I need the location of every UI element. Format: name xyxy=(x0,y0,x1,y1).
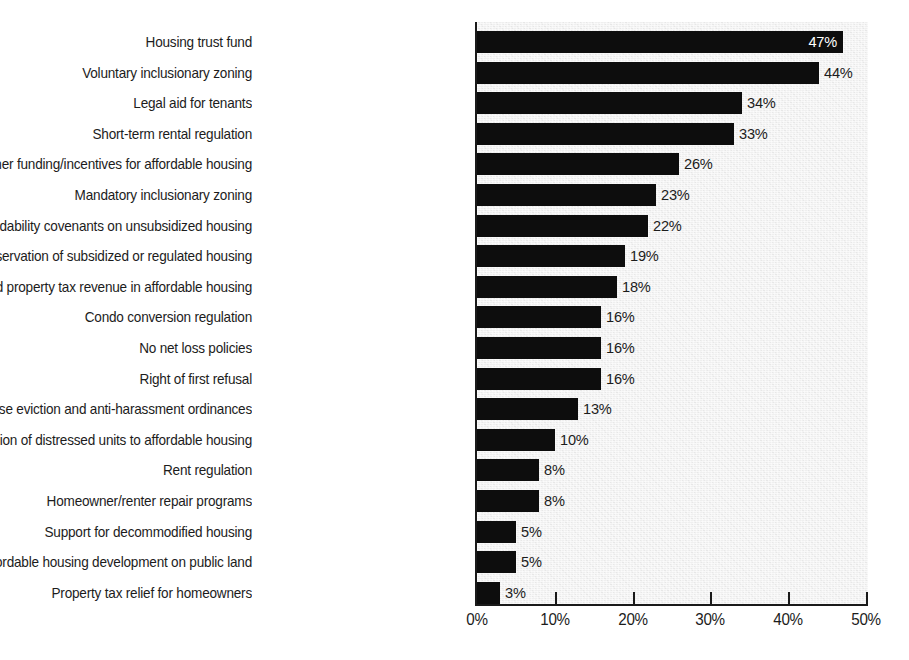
bar-value-label: 16% xyxy=(606,337,635,359)
bar xyxy=(477,276,617,298)
x-axis-tick-label: 30% xyxy=(677,610,744,630)
category-label: Voluntary inclusionary zoning xyxy=(0,62,252,84)
bar-row: Affordable housing development on public… xyxy=(0,551,909,573)
bar-value-label: 16% xyxy=(606,306,635,328)
bar-row: Voluntary inclusionary zoning44% xyxy=(0,62,909,84)
bar xyxy=(477,123,734,145)
bar-value-label: 16% xyxy=(606,368,635,390)
category-label: Preservation of subsidized or regulated … xyxy=(0,245,252,267)
bar-value-label: 8% xyxy=(544,490,565,512)
bar-value-label: 22% xyxy=(653,215,682,237)
bar-row: Right of first refusal16% xyxy=(0,368,909,390)
x-axis-tick xyxy=(788,592,790,604)
bar-row: Mandatory inclusionary zoning23% xyxy=(0,184,909,206)
bar-value-label: 33% xyxy=(739,123,768,145)
bar-row: Reinvesting increased property tax reven… xyxy=(0,276,909,298)
bar xyxy=(477,429,555,451)
x-axis-tick xyxy=(555,592,557,604)
bar-row: Housing trust fund47% xyxy=(0,31,909,53)
x-axis-tick xyxy=(866,592,868,604)
bar-value-label: 3% xyxy=(505,582,526,604)
bar-value-label: 13% xyxy=(583,398,612,420)
bar-row: Conversion of distressed units to afford… xyxy=(0,429,909,451)
bar xyxy=(477,62,819,84)
bar-value-label: 8% xyxy=(544,459,565,481)
category-label: Reinvesting increased property tax reven… xyxy=(0,276,252,298)
bar xyxy=(477,245,625,267)
x-axis-tick-label: 10% xyxy=(522,610,589,630)
bar-value-label: 47% xyxy=(786,31,837,53)
bar-row: Condo conversion regulation16% xyxy=(0,306,909,328)
bar-value-label: 18% xyxy=(622,276,651,298)
category-label: Short-term rental regulation xyxy=(0,123,252,145)
bar-row: Just cause eviction and anti-harassment … xyxy=(0,398,909,420)
bar-row: Rent regulation8% xyxy=(0,459,909,481)
bar-value-label: 19% xyxy=(630,245,659,267)
bar xyxy=(477,215,648,237)
bar-row: Short-term rental regulation33% xyxy=(0,123,909,145)
category-label: Affordable housing development on public… xyxy=(0,551,252,573)
bar-row: Preservation of subsidized or regulated … xyxy=(0,245,909,267)
bar-chart: Housing trust fund47%Voluntary inclusion… xyxy=(0,0,909,660)
category-label: Legal aid for tenants xyxy=(0,92,252,114)
bar-value-label: 26% xyxy=(684,153,713,175)
x-axis-tick-label: 0% xyxy=(444,610,511,630)
x-axis-tick xyxy=(710,592,712,604)
bar-row: Legal aid for tenants34% xyxy=(0,92,909,114)
category-label: Conversion of distressed units to afford… xyxy=(0,429,252,451)
bar xyxy=(477,368,601,390)
category-label: Housing trust fund xyxy=(0,31,252,53)
bar xyxy=(477,521,516,543)
bar xyxy=(477,337,601,359)
category-label: Other funding/incentives for affordable … xyxy=(0,153,252,175)
category-label: Rent regulation xyxy=(0,459,252,481)
bar xyxy=(477,490,539,512)
bar-row: Property tax relief for homeowners3% xyxy=(0,582,909,604)
bar-value-label: 34% xyxy=(747,92,776,114)
x-axis-tick-label: 50% xyxy=(833,610,900,630)
category-label: Right of first refusal xyxy=(0,368,252,390)
bar xyxy=(477,582,500,604)
bar xyxy=(477,398,578,420)
x-axis-tick-label: 20% xyxy=(599,610,666,630)
category-label: Condo conversion regulation xyxy=(0,306,252,328)
bar-row: Establishing affordability covenants on … xyxy=(0,215,909,237)
bar-value-label: 5% xyxy=(521,521,542,543)
x-axis-tick xyxy=(633,592,635,604)
bar xyxy=(477,92,742,114)
bar-row: Other funding/incentives for affordable … xyxy=(0,153,909,175)
bar-value-label: 10% xyxy=(560,429,589,451)
bar xyxy=(477,459,539,481)
category-label: Homeowner/renter repair programs xyxy=(0,490,252,512)
bar xyxy=(477,184,656,206)
category-label: Mandatory inclusionary zoning xyxy=(0,184,252,206)
x-axis-tick-label: 40% xyxy=(755,610,822,630)
bar-value-label: 44% xyxy=(824,62,853,84)
category-label: Establishing affordability covenants on … xyxy=(0,215,252,237)
category-label: No net loss policies xyxy=(0,337,252,359)
bar-row: Support for decommodified housing5% xyxy=(0,521,909,543)
category-label: Support for decommodified housing xyxy=(0,521,252,543)
bar-row: No net loss policies16% xyxy=(0,337,909,359)
category-label: Property tax relief for homeowners xyxy=(0,582,252,604)
bar xyxy=(477,551,516,573)
bar-row: Homeowner/renter repair programs8% xyxy=(0,490,909,512)
bar-value-label: 5% xyxy=(521,551,542,573)
category-label: Just cause eviction and anti-harassment … xyxy=(0,398,252,420)
bar-value-label: 23% xyxy=(661,184,690,206)
bar xyxy=(477,153,679,175)
bar xyxy=(477,306,601,328)
